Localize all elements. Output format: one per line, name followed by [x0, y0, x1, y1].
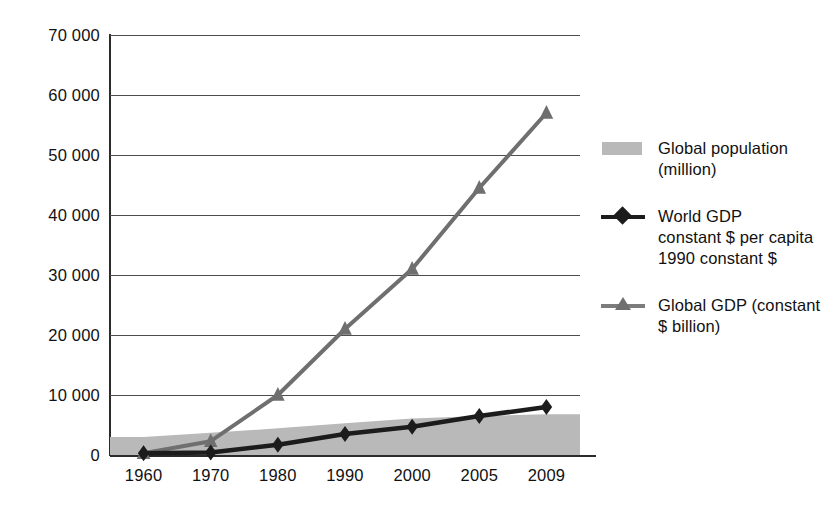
- data-point-diamond: [541, 399, 553, 415]
- chart-figure: 010 00020 00030 00040 00050 00060 00070 …: [0, 0, 829, 520]
- diamond-marker-icon: [613, 206, 631, 224]
- legend-label-line: $ billion): [658, 316, 820, 337]
- legend-label-line: Global GDP (constant: [658, 295, 820, 316]
- x-axis-tick-labels: 1960197019801990200020052009: [110, 466, 580, 494]
- legend-swatch-icon: [600, 138, 648, 159]
- legend-label: World GDPconstant $ per capita1990 const…: [658, 206, 813, 269]
- legend-label-line: Global population: [658, 138, 788, 159]
- data-point-triangle: [540, 105, 554, 119]
- legend-item[interactable]: Global population(million): [600, 138, 825, 180]
- legend-label-line: 1990 constant $: [658, 248, 813, 269]
- y-tick-label: 0: [8, 446, 100, 465]
- chart-legend: Global population(million)World GDPconst…: [600, 138, 825, 363]
- y-tick-label: 60 000: [8, 86, 100, 105]
- legend-diamond-line-icon: [600, 206, 648, 227]
- legend-label: Global GDP (constant$ billion): [658, 295, 820, 337]
- x-tick-label: 1990: [326, 466, 364, 485]
- legend-label-line: World GDP: [658, 206, 813, 227]
- global-gdp-markers: [137, 105, 553, 459]
- series-layer: [110, 35, 580, 455]
- y-tick-label: 10 000: [8, 386, 100, 405]
- plot-area: [110, 35, 580, 455]
- x-tick-label: 2009: [528, 466, 566, 485]
- legend-label-line: constant $ per capita: [658, 227, 813, 248]
- legend-label-line: (million): [658, 159, 788, 180]
- legend-item[interactable]: Global GDP (constant$ billion): [600, 295, 825, 337]
- global-gdp-line: [144, 113, 547, 453]
- x-axis-line: [110, 455, 596, 457]
- y-tick-label: 70 000: [8, 26, 100, 45]
- x-tick-label: 2005: [461, 466, 499, 485]
- y-axis-tick-labels: 010 00020 00030 00040 00050 00060 00070 …: [0, 35, 100, 455]
- triangle-marker-icon: [615, 297, 631, 310]
- y-tick-label: 40 000: [8, 206, 100, 225]
- legend-triangle-line-icon: [600, 295, 648, 316]
- x-tick-label: 1960: [125, 466, 163, 485]
- y-tick-label: 50 000: [8, 146, 100, 165]
- x-tick-label: 1970: [192, 466, 230, 485]
- area-swatch-icon: [602, 142, 642, 155]
- y-tick-label: 30 000: [8, 266, 100, 285]
- x-tick-label: 2000: [393, 466, 431, 485]
- legend-label: Global population(million): [658, 138, 788, 180]
- legend-item[interactable]: World GDPconstant $ per capita1990 const…: [600, 206, 825, 269]
- x-tick-label: 1980: [259, 466, 297, 485]
- y-tick-label: 20 000: [8, 326, 100, 345]
